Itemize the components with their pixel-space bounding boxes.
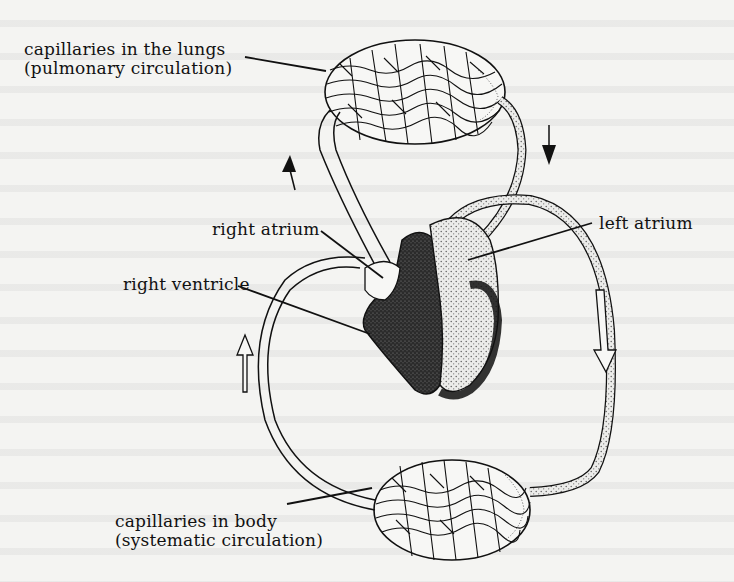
- vena-cava-flow-arrow: [237, 335, 253, 392]
- label-lung-capillaries-line2: (pulmonary circulation): [24, 59, 232, 78]
- label-right-atrium: right atrium: [212, 220, 320, 239]
- circulation-diagram: [0, 0, 734, 582]
- heart: [363, 218, 498, 396]
- label-lung-capillaries-line1: capillaries in the lungs: [24, 40, 232, 59]
- pulmonary-artery-flow-arrow: [282, 155, 296, 190]
- label-lung-capillaries: capillaries in the lungs (pulmonary circ…: [24, 40, 232, 78]
- label-body-capillaries-line2: (systematic circulation): [115, 531, 323, 550]
- label-body-capillaries: capillaries in body (systematic circulat…: [115, 512, 323, 550]
- label-right-ventricle: right ventricle: [123, 275, 250, 294]
- label-left-atrium: left atrium: [599, 214, 693, 233]
- lung-capillary-network: [325, 40, 505, 144]
- pulmonary-vein-flow-arrow: [542, 125, 556, 165]
- label-body-capillaries-line1: capillaries in body: [115, 512, 323, 531]
- body-capillary-network: [374, 460, 530, 560]
